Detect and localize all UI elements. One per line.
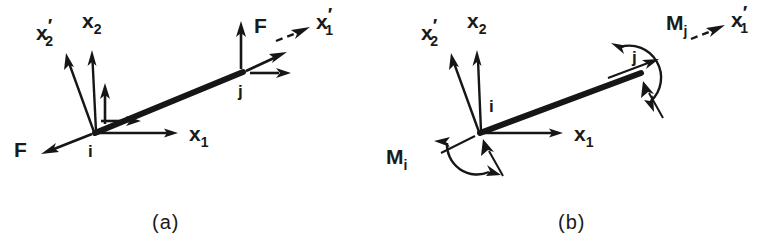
panel-b: x1 x2 x′2 x′1 Mi Mj i xyxy=(386,2,748,233)
node-label-i-a: i xyxy=(88,142,93,161)
axis-label-x2-a: x2 xyxy=(82,9,102,37)
axis-label-x2-prime-b: x′2 xyxy=(421,15,438,49)
axis-x2-prime-a xyxy=(64,53,94,132)
axis-label-x2-prime-a: x′2 xyxy=(36,15,53,49)
node-label-i-b: i xyxy=(489,97,494,116)
panel-caption-b: (b) xyxy=(558,211,585,233)
force-i-resultant-a xyxy=(41,134,92,154)
axis-x2-prime-b xyxy=(449,53,479,132)
beam-element-b xyxy=(480,73,641,133)
force-i-x2-component-a xyxy=(100,83,110,124)
panel-caption-a: (a) xyxy=(152,211,179,233)
node-label-j-a: j xyxy=(237,82,243,101)
force-label-F-j-a: F xyxy=(254,14,267,37)
force-label-F-i-a: F xyxy=(14,138,27,161)
panel-a: x1 x2 x′2 x′1 F F i j (a) xyxy=(14,4,333,233)
axis-label-x2-b: x2 xyxy=(467,9,487,37)
axis-x1-prime-a xyxy=(276,27,310,41)
force-j-x2-component-a xyxy=(236,21,246,69)
beam-force-moment-diagram: x1 x2 x′2 x′1 F F i j (a) xyxy=(0,0,777,250)
axis-label-x1-a: x1 xyxy=(189,122,209,150)
force-j-x1-component-a xyxy=(250,68,291,78)
beam-element-a xyxy=(95,72,243,133)
moment-label-Mj-b: Mj xyxy=(666,11,687,39)
axis-label-x1-prime-a: x′1 xyxy=(316,4,333,38)
axis-x1-prime-b xyxy=(691,25,725,39)
node-label-j-b: j xyxy=(631,48,637,67)
force-j-resultant-a xyxy=(246,52,287,71)
figure-root: x1 x2 x′2 x′1 F F i j (a) xyxy=(0,0,777,250)
axis-label-x1-b: x1 xyxy=(574,122,594,150)
axis-label-x1-prime-b: x′1 xyxy=(731,2,748,36)
moment-label-Mi-b: Mi xyxy=(386,145,407,173)
